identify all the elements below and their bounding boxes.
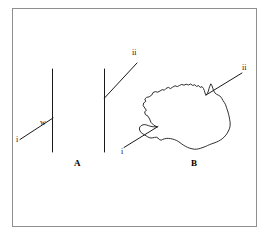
panel-a-stimulus-i (20, 69, 53, 152)
panel-a-stimulus-ii (105, 63, 138, 152)
oblique-line-a2 (105, 63, 138, 98)
panel-a-label-ii: ii (132, 49, 136, 57)
panel-a-label-i: i (16, 136, 18, 144)
figure-root: i w ii i ii A B (0, 0, 267, 241)
panel-label-b: B (191, 159, 197, 168)
pointer-line-i (124, 127, 158, 148)
oblique-line-a1 (20, 118, 53, 140)
panel-a-label-w: w (40, 119, 46, 127)
panel-label-a: A (74, 159, 81, 168)
australia-map-outline (139, 84, 230, 149)
panel-b-label-i: i (121, 148, 123, 156)
australia-coastline-path (139, 84, 230, 149)
panel-b-label-ii: ii (242, 64, 246, 72)
